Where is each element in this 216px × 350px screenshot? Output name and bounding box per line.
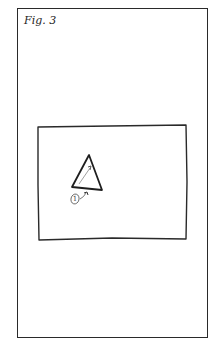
arrowhead-inside-icon — [88, 166, 91, 170]
figure-drawing — [0, 0, 216, 350]
marker-number: 1 — [70, 193, 80, 205]
inner-rectangle — [38, 125, 187, 240]
marker-pointer-arrow — [80, 193, 86, 199]
